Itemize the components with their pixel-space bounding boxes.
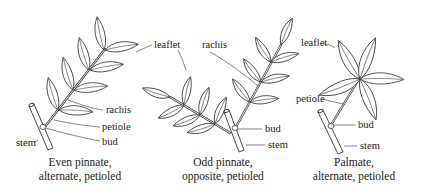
odd-pinnate-panel: leaflet rachis bud stem Odd pinnate, opp… [136,17,300,183]
caption-line-2: alternate, petioled [313,170,396,183]
caption-line-1: Palmate, [334,156,374,169]
bud-shape [40,125,46,130]
caption-line-1: Even pinnate, [48,156,111,169]
label-stem: stem [268,139,288,150]
caption-line-2: alternate, petioled [39,170,122,183]
label-rachis: rachis [106,104,131,115]
label-leaflet: leaflet [154,39,180,50]
label-leaflet: leaflet [301,37,327,48]
label-bud: bud [265,123,282,134]
label-bud: bud [358,119,375,130]
bud-shape [232,126,238,131]
stem-shape [317,109,343,154]
label-petiole: petiole [296,93,325,104]
compound-leaf-figure: rachis petiole bud stem Even pinnate, al… [0,0,421,195]
bud-shape [328,124,334,129]
even-pinnate-panel: rachis petiole bud stem Even pinnate, al… [16,16,139,183]
caption-line-1: Odd pinnate, [193,156,253,169]
label-bud: bud [102,136,119,147]
caption-line-2: opposite, petioled [182,170,264,183]
label-rachis: rachis [202,39,227,50]
label-stem: stem [16,137,36,148]
label-stem: stem [360,140,380,151]
label-petiole: petiole [102,121,131,132]
palmate-panel: leaflet petiole bud stem Palmate, altern… [296,36,404,183]
